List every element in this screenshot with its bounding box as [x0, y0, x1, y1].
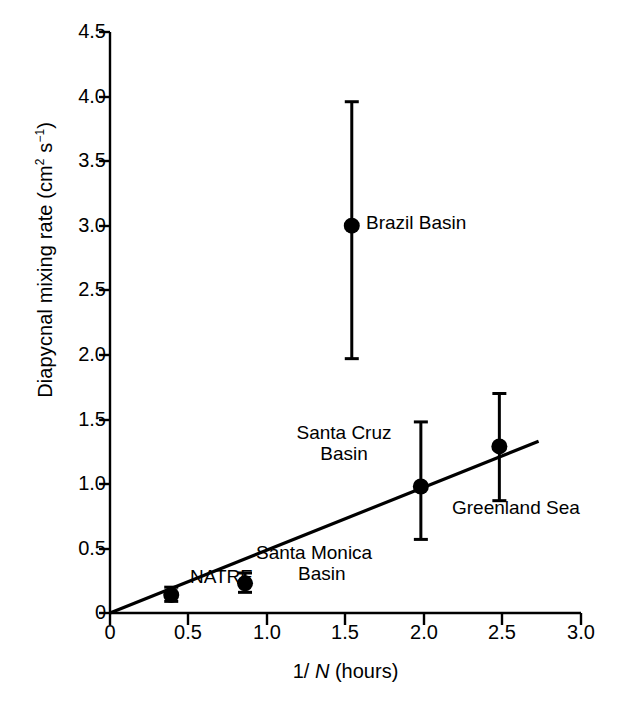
data-point	[344, 102, 360, 359]
point-label-santa-cruz-basin: Santa Cruz Basin	[288, 422, 400, 465]
point-label-natre: NATRE	[190, 566, 253, 587]
point-label-line1: Santa Monica	[256, 542, 372, 563]
data-point	[491, 394, 507, 501]
plot-area	[0, 0, 626, 702]
point-label-santa-monica-basin: Santa Monica Basin	[256, 542, 436, 585]
data-series	[163, 102, 507, 603]
axes	[110, 32, 581, 613]
data-marker	[413, 478, 429, 494]
point-label-brazil-basin: Brazil Basin	[366, 212, 466, 233]
point-label-greenland-sea: Greenland Sea	[452, 497, 580, 518]
data-point	[413, 422, 429, 539]
data-marker	[163, 587, 179, 603]
point-label-line1: Santa Cruz	[296, 422, 391, 443]
data-marker	[344, 218, 360, 234]
point-label-line2: Basin	[298, 563, 346, 584]
point-label-line2: Basin	[320, 443, 368, 464]
x-axis-ticks	[110, 613, 581, 625]
data-marker	[491, 438, 507, 454]
y-axis-ticks	[99, 32, 110, 613]
chart-figure: Diapycnal mixing rate (cm2 s−1) 1/ N (ho…	[0, 0, 626, 702]
data-point	[163, 587, 179, 603]
